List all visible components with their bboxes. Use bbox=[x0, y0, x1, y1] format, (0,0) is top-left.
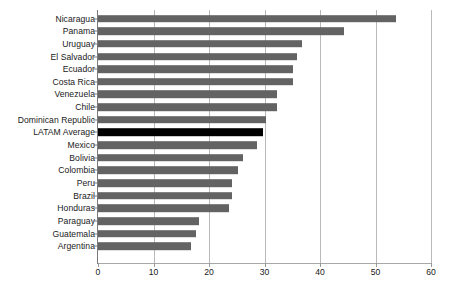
category-tick bbox=[93, 119, 97, 120]
category-label: Bolivia bbox=[69, 153, 95, 162]
x-tick-label: 40 bbox=[315, 268, 325, 277]
category-label: Panama bbox=[63, 27, 95, 36]
x-axis-ticks: 0102030405060 bbox=[0, 263, 451, 285]
x-tick-label: 50 bbox=[371, 268, 381, 277]
bar-row: Bolivia bbox=[0, 151, 451, 164]
category-label: Brazil bbox=[73, 191, 95, 200]
bar-mexico bbox=[98, 141, 257, 149]
bar-dominican-republic bbox=[98, 116, 266, 124]
bar-rows: NicaraguaPanamaUruguayEl SalvadorEcuador… bbox=[0, 10, 451, 263]
category-tick bbox=[93, 195, 97, 196]
bar-paraguay bbox=[98, 217, 199, 225]
category-tick bbox=[93, 69, 97, 70]
category-label: Honduras bbox=[57, 204, 95, 213]
bar-venezuela bbox=[98, 91, 277, 99]
category-tick bbox=[93, 157, 97, 158]
category-tick bbox=[93, 220, 97, 221]
category-label: Mexico bbox=[67, 141, 95, 150]
bar-row: Argentina bbox=[0, 240, 451, 253]
bar-latam-average bbox=[98, 129, 263, 137]
bar-row: Colombia bbox=[0, 164, 451, 177]
category-tick bbox=[93, 56, 97, 57]
bar-guatemala bbox=[98, 230, 196, 238]
bar-row: El Salvador bbox=[0, 50, 451, 63]
category-label: Ecuador bbox=[63, 65, 95, 74]
category-tick bbox=[93, 208, 97, 209]
category-label: Paraguay bbox=[58, 217, 95, 226]
category-tick bbox=[93, 43, 97, 44]
bar-nicaragua bbox=[98, 15, 396, 23]
category-tick bbox=[93, 145, 97, 146]
bar-peru bbox=[98, 179, 232, 187]
category-tick bbox=[93, 31, 97, 32]
bar-row: Panama bbox=[0, 25, 451, 38]
bar-argentina bbox=[98, 242, 191, 250]
category-tick bbox=[93, 94, 97, 95]
x-tick-label: 20 bbox=[204, 268, 214, 277]
bar-row: Peru bbox=[0, 177, 451, 190]
bar-row: Costa Rica bbox=[0, 76, 451, 89]
bar-chart: NicaraguaPanamaUruguayEl SalvadorEcuador… bbox=[0, 0, 451, 295]
bar-row: Mexico bbox=[0, 139, 451, 152]
bar-chile bbox=[98, 103, 277, 111]
bar-row: LATAM Average bbox=[0, 126, 451, 139]
bar-row: Brazil bbox=[0, 189, 451, 202]
x-tick-label: 30 bbox=[260, 268, 270, 277]
category-label: Colombia bbox=[58, 166, 95, 175]
category-tick bbox=[93, 246, 97, 247]
x-tick-label: 0 bbox=[96, 268, 101, 277]
bar-brazil bbox=[98, 192, 232, 200]
category-tick bbox=[93, 18, 97, 19]
bar-colombia bbox=[98, 167, 238, 175]
bar-row: Dominican Republic bbox=[0, 113, 451, 126]
bar-bolivia bbox=[98, 154, 243, 162]
bar-row: Uruguay bbox=[0, 38, 451, 51]
category-tick bbox=[93, 81, 97, 82]
category-tick bbox=[93, 183, 97, 184]
category-label: Dominican Republic bbox=[18, 115, 95, 124]
bar-row: Nicaragua bbox=[0, 12, 451, 25]
bar-row: Guatemala bbox=[0, 227, 451, 240]
category-label: Argentina bbox=[58, 242, 95, 251]
category-tick bbox=[93, 233, 97, 234]
category-label: Venezuela bbox=[54, 90, 95, 99]
bar-row: Paraguay bbox=[0, 215, 451, 228]
bar-row: Venezuela bbox=[0, 88, 451, 101]
bar-honduras bbox=[98, 205, 229, 213]
category-label: Guatemala bbox=[53, 229, 96, 238]
bar-el-salvador bbox=[98, 53, 297, 61]
category-label: Uruguay bbox=[62, 40, 95, 49]
category-tick bbox=[93, 132, 97, 133]
bar-row: Chile bbox=[0, 101, 451, 114]
category-tick bbox=[93, 107, 97, 108]
category-tick bbox=[93, 170, 97, 171]
bar-panama bbox=[98, 27, 344, 35]
bar-uruguay bbox=[98, 40, 302, 48]
bar-row: Honduras bbox=[0, 202, 451, 215]
category-label: Nicaragua bbox=[55, 14, 95, 23]
bar-ecuador bbox=[98, 65, 293, 73]
category-label: El Salvador bbox=[51, 52, 96, 61]
bar-row: Ecuador bbox=[0, 63, 451, 76]
x-tick-label: 60 bbox=[426, 268, 436, 277]
bar-costa-rica bbox=[98, 78, 293, 86]
category-label: Costa Rica bbox=[52, 78, 95, 87]
x-tick-label: 10 bbox=[149, 268, 159, 277]
category-label: LATAM Average bbox=[33, 128, 95, 137]
